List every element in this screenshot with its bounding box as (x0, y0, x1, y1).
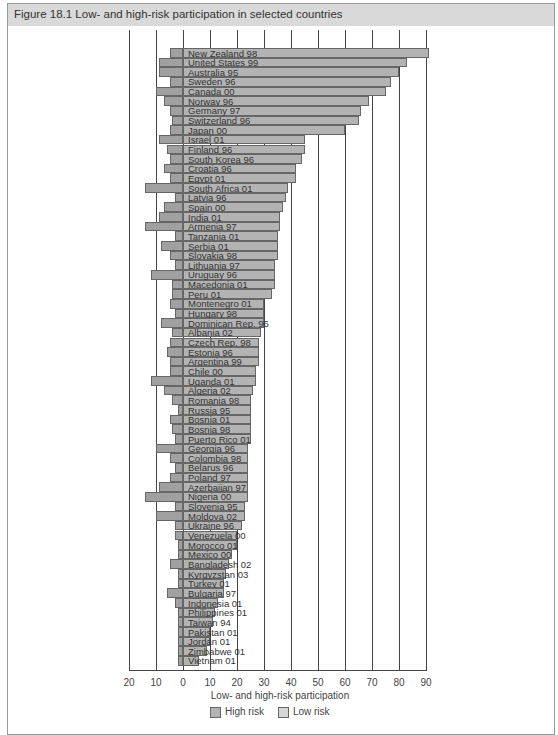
country-label: Latvia 96 (188, 193, 227, 202)
low-risk-bar (145, 222, 183, 232)
low-risk-bar (175, 531, 183, 541)
country-label: Slovenia 95 (188, 502, 238, 511)
country-label: Algeria 02 (188, 386, 231, 395)
x-tick-label: 50 (303, 677, 333, 688)
country-label: Serbia 01 (188, 242, 229, 251)
x-tick-label: 60 (330, 677, 360, 688)
country-label: Estonia 96 (188, 348, 233, 357)
country-label: Japan 00 (188, 126, 227, 135)
country-label: Belarus 96 (188, 463, 233, 472)
country-label: Czech Rep. 98 (188, 338, 251, 347)
low-risk-bar (164, 96, 183, 106)
low-risk-bar (175, 521, 183, 531)
low-risk-bar (170, 251, 184, 261)
gridline (399, 30, 400, 671)
low-risk-bar (151, 376, 183, 386)
low-risk-bar (159, 135, 183, 145)
country-label: Sweden 96 (188, 77, 236, 86)
low-risk-bar (151, 270, 183, 280)
low-risk-bar (170, 415, 184, 425)
low-risk-bar (170, 357, 184, 367)
low-risk-bar (172, 289, 183, 299)
country-label: Macedonia 01 (188, 280, 248, 289)
low-risk-bar (156, 444, 183, 454)
country-label: Argentina 99 (188, 357, 242, 366)
country-label: Venezuela 00 (188, 531, 246, 540)
country-label: Taiwan 94 (188, 618, 231, 627)
country-label: Pakistan 01 (188, 628, 238, 637)
low-risk-bar (172, 395, 183, 405)
country-label: Jordan 01 (188, 637, 230, 646)
low-risk-bar (164, 202, 183, 212)
low-risk-bar (170, 125, 184, 135)
low-risk-bar (175, 193, 183, 203)
low-risk-bar (145, 492, 183, 502)
country-label: Bosnia 01 (188, 415, 230, 424)
country-label: Morocco 01 (188, 541, 238, 550)
low-risk-bar (175, 260, 183, 270)
country-label: Lithuania 97 (188, 261, 240, 270)
gridline (345, 30, 346, 671)
low-risk-bar (175, 463, 183, 473)
low-risk-bar (156, 511, 183, 521)
country-label: Turkey 01 (188, 579, 230, 588)
country-label: Slovakia 98 (188, 251, 237, 260)
low-risk-bar (167, 145, 183, 155)
low-risk-bar (170, 366, 184, 376)
country-label: Dominican Rep. 96 (188, 319, 269, 328)
country-label: Albania 02 (188, 328, 233, 337)
gridline (156, 30, 157, 671)
country-label: Nigeria 00 (188, 492, 231, 501)
low-risk-bar (167, 588, 183, 598)
low-risk-bar (170, 299, 184, 309)
country-label: Colombia 98 (188, 454, 241, 463)
country-label: Bangladesh 02 (188, 560, 251, 569)
low-risk-bar (170, 453, 184, 463)
gridline (426, 30, 427, 671)
country-label: Montenegro 01 (188, 299, 252, 308)
x-axis-label: Low- and high-risk participation (180, 690, 380, 701)
country-label: Bulgaria 97 (188, 589, 236, 598)
low-risk-bar (164, 164, 183, 174)
low-risk-bar (170, 338, 184, 348)
low-risk-bar (159, 67, 183, 77)
low-risk-swatch (278, 707, 289, 718)
country-label: Peru 01 (188, 290, 221, 299)
country-label: Bosnia 98 (188, 425, 230, 434)
country-label: Israel 01 (188, 135, 224, 144)
country-label: Zimbabwe 01 (188, 647, 245, 656)
low-risk-bar (161, 318, 183, 328)
low-risk-bar (172, 424, 183, 434)
low-risk-bar (170, 77, 184, 87)
country-label: Indonesia 01 (188, 599, 242, 608)
country-label: Chile 00 (188, 367, 223, 376)
high-risk-swatch (210, 707, 221, 718)
low-risk-bar (170, 173, 184, 183)
country-label: Egypt 01 (188, 174, 226, 183)
low-risk-bar (159, 482, 183, 492)
low-risk-bar (175, 598, 183, 608)
country-label: Hungary 98 (188, 309, 237, 318)
country-label: Tanzania 01 (188, 232, 239, 241)
low-risk-bar (175, 502, 183, 512)
x-tick-label: 70 (357, 677, 387, 688)
low-risk-bar (175, 231, 183, 241)
legend-low-label: Low risk (293, 706, 330, 717)
country-label: Armenia 97 (188, 222, 237, 231)
x-tick-label: 90 (411, 677, 441, 688)
low-risk-bar (159, 58, 183, 68)
x-tick-label: 20 (114, 677, 144, 688)
low-risk-bar (175, 434, 183, 444)
low-risk-bar (167, 347, 183, 357)
country-label: Azerbaijan 97 (188, 483, 246, 492)
country-label: Mexico 00 (188, 550, 231, 559)
country-label: Puerto Rico 01 (188, 435, 251, 444)
country-label: United States 99 (188, 58, 258, 67)
x-tick-label: 80 (384, 677, 414, 688)
x-tick-label: 10 (141, 677, 171, 688)
country-label: Ukraine 96 (188, 521, 234, 530)
x-tick-label: 0 (168, 677, 198, 688)
country-label: Uruguay 96 (188, 270, 237, 279)
country-label: India 01 (188, 213, 222, 222)
